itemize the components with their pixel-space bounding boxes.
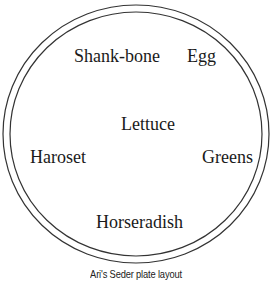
label-haroset: Haroset <box>30 148 86 166</box>
label-egg: Egg <box>187 47 216 65</box>
label-horseradish: Horseradish <box>96 213 183 231</box>
label-greens: Greens <box>202 148 253 166</box>
diagram-caption: Ari's Seder plate layout <box>20 268 251 280</box>
label-lettuce: Lettuce <box>121 115 175 133</box>
label-shank-bone: Shank-bone <box>74 47 160 65</box>
seder-plate-rings <box>0 0 272 287</box>
